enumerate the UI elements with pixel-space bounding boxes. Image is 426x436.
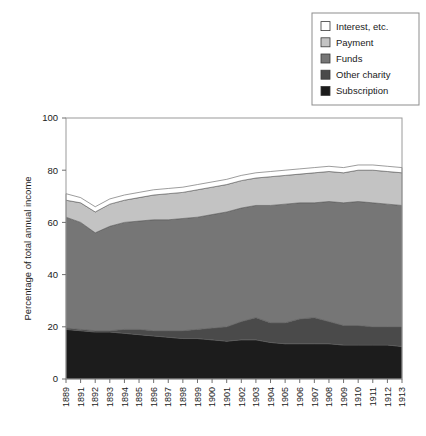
- legend-label-interest-etc: Interest, etc.: [336, 21, 388, 32]
- x-tick-label: 1904: [266, 387, 276, 407]
- x-tick-label: 1892: [90, 387, 100, 407]
- y-tick-label: 0: [53, 373, 58, 384]
- legend-label-funds: Funds: [336, 53, 363, 64]
- x-tick-label: 1901: [222, 387, 232, 407]
- x-tick-label: 1911: [368, 387, 378, 406]
- chart-canvas: 020406080100 188918911892189318941895189…: [0, 0, 426, 436]
- x-tick-label: 1899: [193, 387, 203, 407]
- chart-legend: Interest, etc.PaymentFundsOther charityS…: [312, 13, 419, 105]
- y-axis-title: Percentage of total annual income: [22, 176, 33, 320]
- y-tick-label: 40: [47, 269, 58, 280]
- y-axis: 020406080100: [42, 112, 66, 384]
- x-tick-label: 1910: [353, 387, 363, 407]
- legend-label-other-charity: Other charity: [336, 69, 391, 80]
- x-tick-label: 1913: [397, 387, 407, 407]
- x-tick-label: 1898: [178, 387, 188, 407]
- legend-swatch-interest-etc: [321, 22, 330, 31]
- x-tick-label: 1893: [105, 387, 115, 407]
- y-tick-label: 100: [42, 112, 58, 123]
- legend-swatch-subscription: [321, 86, 330, 95]
- x-axis: 1889189118921893189418951896189718981899…: [61, 379, 407, 407]
- stacked-area-chart: 020406080100 188918911892189318941895189…: [0, 0, 426, 436]
- y-tick-label: 60: [47, 217, 58, 228]
- x-tick-label: 1900: [207, 387, 217, 407]
- x-tick-label: 1905: [280, 387, 290, 407]
- y-axis-title-text: Percentage of total annual income: [22, 176, 33, 320]
- legend-swatch-other-charity: [321, 70, 330, 79]
- legend-swatch-funds: [321, 54, 330, 63]
- x-tick-label: 1903: [251, 387, 261, 407]
- legend-swatch-payment: [321, 38, 330, 47]
- legend-label-payment: Payment: [336, 37, 374, 48]
- x-tick-label: 1897: [163, 387, 173, 407]
- x-tick-label: 1895: [134, 387, 144, 407]
- x-tick-label: 1902: [237, 387, 247, 407]
- legend-label-subscription: Subscription: [336, 85, 388, 96]
- x-tick-label: 1908: [324, 387, 334, 407]
- x-tick-label: 1909: [339, 387, 349, 407]
- x-tick-label: 1907: [310, 387, 320, 407]
- x-tick-label: 1896: [149, 387, 159, 407]
- x-tick-label: 1891: [76, 387, 86, 407]
- x-tick-label: 1912: [383, 387, 393, 407]
- y-tick-label: 20: [47, 321, 58, 332]
- x-tick-label: 1906: [295, 387, 305, 407]
- x-tick-label: 1894: [120, 387, 130, 407]
- x-tick-label: 1889: [61, 387, 71, 407]
- y-tick-label: 80: [47, 165, 58, 176]
- chart-bands-group: [66, 165, 402, 379]
